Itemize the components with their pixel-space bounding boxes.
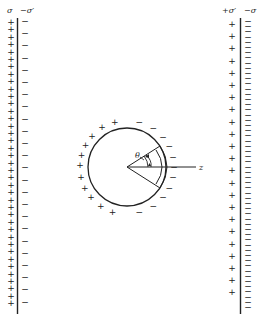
minus-charge: − [244, 302, 252, 312]
plus-charge: + [228, 165, 236, 175]
dielectric-sphere-diagram: σ −σ′ +σ′ −σ +++++++++++++++++++++++++++… [0, 0, 261, 319]
minus-charge: − [150, 201, 158, 211]
minus-charge: − [21, 40, 29, 50]
left-plate-minus-charges: −−−−−−−−−−−−−−−−−−−−−−−− [21, 16, 29, 307]
minus-charge: − [21, 272, 29, 282]
plus-charge: + [7, 298, 15, 308]
plus-charge: + [228, 226, 236, 236]
plus-charge: + [228, 239, 236, 249]
minus-charge: − [21, 28, 29, 38]
left-plate-plus-charges: +++++++++++++++++++++++++++++++++++++++ [7, 17, 15, 308]
theta-label: θ [135, 151, 140, 160]
plus-charge: + [228, 129, 236, 139]
plus-charge: + [228, 104, 236, 114]
minus-charge: − [21, 16, 29, 26]
minus-charge: − [159, 132, 167, 142]
plus-charge: + [228, 190, 236, 200]
left-plate-sigma-prime-label: −σ′ [20, 6, 34, 15]
minus-charge: − [21, 187, 29, 197]
minus-charge: − [21, 77, 29, 87]
minus-charge: − [21, 101, 29, 111]
minus-charge: − [21, 89, 29, 99]
minus-charge: − [21, 211, 29, 221]
minus-charge: − [165, 141, 173, 151]
plus-charge: + [111, 117, 119, 127]
minus-charge: − [135, 117, 143, 127]
minus-charge: − [21, 248, 29, 258]
plus-charge: + [228, 56, 236, 66]
plus-charge: + [228, 80, 236, 90]
minus-charge: − [21, 199, 29, 209]
minus-charge: − [21, 114, 29, 124]
minus-charge: − [21, 138, 29, 148]
minus-charge: − [21, 162, 29, 172]
minus-charge: − [21, 175, 29, 185]
plus-charge: + [228, 117, 236, 127]
plus-charge: + [81, 183, 89, 193]
minus-charge: − [21, 150, 29, 160]
plus-charge: + [228, 19, 236, 29]
left-plate-sigma-label: σ [7, 6, 13, 15]
minus-charge: − [21, 53, 29, 63]
plus-charge: + [77, 172, 85, 182]
plus-charge: + [97, 201, 105, 211]
minus-charge: − [21, 297, 29, 307]
sphere-plus-charges: +++++++++++ [76, 117, 118, 217]
plus-charge: + [228, 141, 236, 151]
minus-charge: − [165, 183, 173, 193]
right-plate-sigma-prime-label: +σ′ [222, 6, 236, 15]
right-plate-sigma-label: −σ [244, 6, 257, 15]
minus-charge: − [21, 126, 29, 136]
minus-charge: − [159, 192, 167, 202]
plus-charge: + [228, 287, 236, 297]
plus-charge: + [228, 251, 236, 261]
plus-charge: + [228, 202, 236, 212]
minus-charge: − [21, 260, 29, 270]
theta-arc [144, 156, 148, 167]
plus-charge: + [76, 160, 84, 170]
plus-charge: + [82, 140, 90, 150]
plus-charge: + [228, 214, 236, 224]
theta-arrow-icon-2 [148, 163, 151, 166]
plus-charge: + [228, 31, 236, 41]
minus-charge: − [169, 172, 177, 182]
plus-charge: + [228, 263, 236, 273]
minus-charge: − [21, 65, 29, 75]
radius-line-upper [127, 146, 160, 167]
minus-charge: − [21, 284, 29, 294]
plus-charge: + [109, 207, 117, 217]
plus-charge: + [87, 192, 95, 202]
plus-charge: + [228, 43, 236, 53]
minus-charge: − [169, 152, 177, 162]
minus-charge: − [135, 207, 143, 217]
right-plate-plus-charges: +++++++++++++++++++++++ [228, 19, 236, 297]
plus-charge: + [228, 153, 236, 163]
plus-charge: + [228, 275, 236, 285]
right-plate-minus-charges: −−−−−−−−−−−−−−−−−−−−−−−−−−−−−−−−−−−−−−−−… [244, 16, 252, 312]
minus-charge: − [21, 236, 29, 246]
plus-charge: + [228, 178, 236, 188]
plus-charge: + [228, 68, 236, 78]
plus-charge: + [88, 131, 96, 141]
radius-line-lower [127, 167, 160, 188]
plus-charge: + [228, 92, 236, 102]
plus-charge: + [98, 122, 106, 132]
minus-charge: − [150, 123, 158, 133]
minus-charge: − [21, 223, 29, 233]
plus-charge: + [78, 150, 86, 160]
z-axis-label: z [198, 163, 204, 172]
